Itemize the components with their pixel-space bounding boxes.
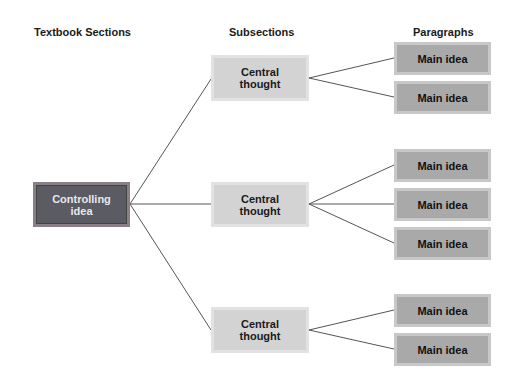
main-idea-node: Main idea (394, 333, 491, 366)
main-idea-node: Main idea (394, 227, 491, 260)
main-idea-node: Main idea (394, 294, 491, 327)
central-thought-node-2: Central thought (211, 182, 309, 227)
main-idea-node: Main idea (394, 149, 491, 182)
central-thought-label: Central thought (235, 193, 285, 217)
central-thought-node-3: Central thought (211, 307, 309, 353)
main-idea-node: Main idea (394, 81, 491, 114)
central-thought-node-1: Central thought (211, 55, 309, 101)
main-idea-node: Main idea (394, 42, 491, 75)
controlling-idea-node: Controlling idea (33, 182, 130, 227)
main-idea-node: Main idea (394, 188, 491, 221)
central-thought-label: Central thought (235, 318, 285, 342)
controlling-idea-label: Controlling idea (52, 193, 112, 217)
central-thought-label: Central thought (235, 66, 285, 90)
